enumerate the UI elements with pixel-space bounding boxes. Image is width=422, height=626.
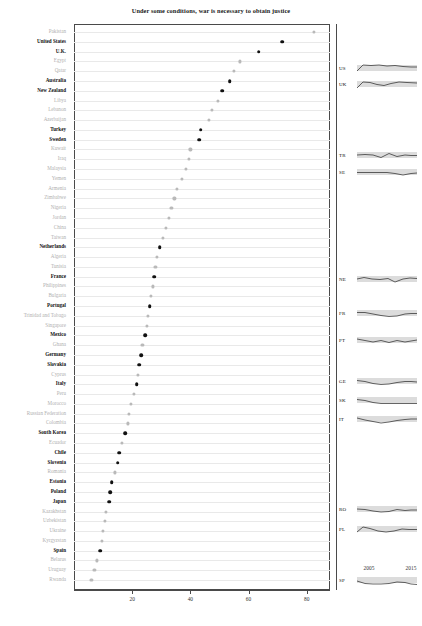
country-label: France <box>51 274 66 279</box>
country-label: Algeria <box>51 255 66 260</box>
country-label: Sweden <box>49 137 66 142</box>
gridline <box>74 443 330 444</box>
gridline <box>74 81 330 82</box>
gridline <box>74 316 330 317</box>
sparkline-year-end: 2015 <box>406 565 417 571</box>
sparkline-label: GE <box>339 379 346 384</box>
gridline <box>74 140 330 141</box>
gridline <box>74 238 330 239</box>
data-point <box>123 431 127 435</box>
sparkline <box>357 78 417 91</box>
gridline <box>74 580 330 581</box>
gridline <box>74 326 330 327</box>
country-label: U.K. <box>56 49 66 54</box>
country-label: Kyrgyzstan <box>43 538 66 543</box>
data-point <box>107 500 111 504</box>
gridline <box>74 149 330 150</box>
country-label: Yemen <box>52 176 66 181</box>
gridline <box>74 394 330 395</box>
gridline <box>74 71 330 72</box>
gridline <box>74 42 330 43</box>
sparkline-label: FR <box>339 311 346 316</box>
data-point <box>143 334 147 338</box>
gridline <box>74 169 330 170</box>
data-point <box>139 353 143 357</box>
country-label: Libya <box>54 98 66 103</box>
gridline <box>74 179 330 180</box>
x-axis-tick <box>132 590 133 594</box>
gridline <box>74 159 330 160</box>
country-label: Tunisia <box>51 264 66 269</box>
data-point <box>221 89 225 93</box>
gridline <box>74 531 330 532</box>
sparkline-panel: USUKTRSENEFRPTGESKITROPLSP20052015 <box>336 24 422 590</box>
sparkline-label: SK <box>339 398 346 403</box>
data-point <box>109 490 113 494</box>
gridline <box>74 91 330 92</box>
country-label: Egypt <box>54 59 66 64</box>
country-label: Romania <box>48 470 66 475</box>
x-axis-tick <box>249 590 250 594</box>
gridline <box>74 335 330 336</box>
x-axis-tick-label: 20 <box>129 596 134 602</box>
data-point <box>98 549 102 553</box>
gridline <box>74 120 330 121</box>
country-label: Qatar <box>55 69 66 74</box>
country-label: Turkey <box>50 127 66 132</box>
gridline <box>74 375 330 376</box>
sparkline-label: IT <box>339 417 344 422</box>
country-label: Morocco <box>48 401 66 406</box>
country-label: Estonia <box>50 480 66 485</box>
country-label: New Zealand <box>37 88 66 93</box>
gridline <box>74 384 330 385</box>
gridline <box>74 286 330 287</box>
sparkline-label: PL <box>339 527 345 532</box>
country-label: Uruguay <box>48 568 66 573</box>
gridline <box>74 247 330 248</box>
gridline <box>74 521 330 522</box>
page-title: Under some conditions, war is necessary … <box>0 7 422 14</box>
sparkline <box>357 149 417 162</box>
gridline <box>74 492 330 493</box>
gridline <box>74 208 330 209</box>
country-label: Singapore <box>45 323 66 328</box>
sparkline-label: NE <box>339 277 346 282</box>
sparkline <box>357 574 417 587</box>
dot-plot <box>74 24 330 590</box>
gridline <box>74 110 330 111</box>
country-label: Germany <box>45 352 66 357</box>
data-point <box>280 40 284 44</box>
country-label: Kuwait <box>51 147 66 152</box>
sparkline-label: SE <box>339 170 345 175</box>
gridline <box>74 306 330 307</box>
sparkline-path <box>357 78 417 91</box>
sparkline <box>357 375 417 388</box>
gridline <box>74 218 330 219</box>
data-point <box>152 275 156 279</box>
gridline <box>74 453 330 454</box>
sparkline <box>357 166 417 179</box>
sparkline-path <box>357 62 417 75</box>
country-label: Japan <box>53 499 66 504</box>
sparkline-label: TR <box>339 153 346 158</box>
country-label: Ukraine <box>50 529 66 534</box>
gridline <box>74 551 330 552</box>
sparkline-label: PT <box>339 338 345 343</box>
country-label: Italy <box>56 382 66 387</box>
sparkline <box>357 307 417 320</box>
chart-page: Under some conditions, war is necessary … <box>0 0 422 626</box>
sparkline-label: RO <box>339 507 346 512</box>
sparkline-path <box>357 166 417 179</box>
gridline <box>74 32 330 33</box>
sparkline-year-start: 2005 <box>364 565 375 571</box>
data-point <box>135 382 139 386</box>
gridline <box>74 423 330 424</box>
gridline <box>74 189 330 190</box>
sparkline-path <box>357 503 417 516</box>
sparkline <box>357 334 417 347</box>
gridline <box>74 512 330 513</box>
x-axis-tick-label: 60 <box>246 596 251 602</box>
x-axis: 20406080 <box>74 590 330 612</box>
x-axis-tick <box>190 590 191 594</box>
sparkline-path <box>357 375 417 388</box>
